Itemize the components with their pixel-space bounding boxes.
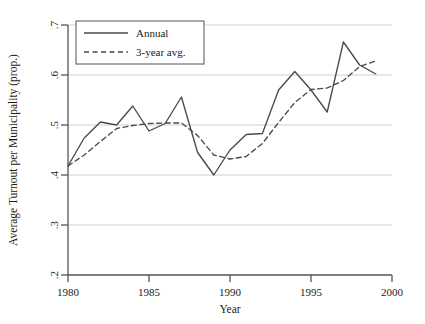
- line-chart: .2.3.4.5.6.7 19801985199019952000 Year A…: [0, 0, 425, 324]
- y-tick-label: .6: [48, 70, 60, 79]
- chart-figure: .2.3.4.5.6.7 19801985199019952000 Year A…: [0, 0, 425, 324]
- chart-legend: Annual 3-year avg.: [76, 21, 204, 64]
- x-tick-label: 2000: [381, 286, 404, 298]
- y-tick-label: .3: [48, 220, 60, 229]
- x-tick-label: 1985: [138, 286, 161, 298]
- x-tick-label: 1980: [57, 286, 80, 298]
- legend-label-annual: Annual: [136, 27, 168, 39]
- legend-label-3-year-avg: 3-year avg.: [136, 46, 186, 58]
- y-axis-title: Average Turnout per Municipality (prop.): [7, 54, 20, 246]
- y-tick-label: .7: [48, 20, 60, 29]
- y-tick-label: .2: [48, 271, 60, 279]
- x-tick-label: 1990: [219, 286, 242, 298]
- y-tick-label: .4: [48, 170, 60, 179]
- x-tick-label: 1995: [300, 286, 323, 298]
- y-tick-label: .5: [48, 120, 60, 129]
- x-axis-title: Year: [219, 303, 240, 315]
